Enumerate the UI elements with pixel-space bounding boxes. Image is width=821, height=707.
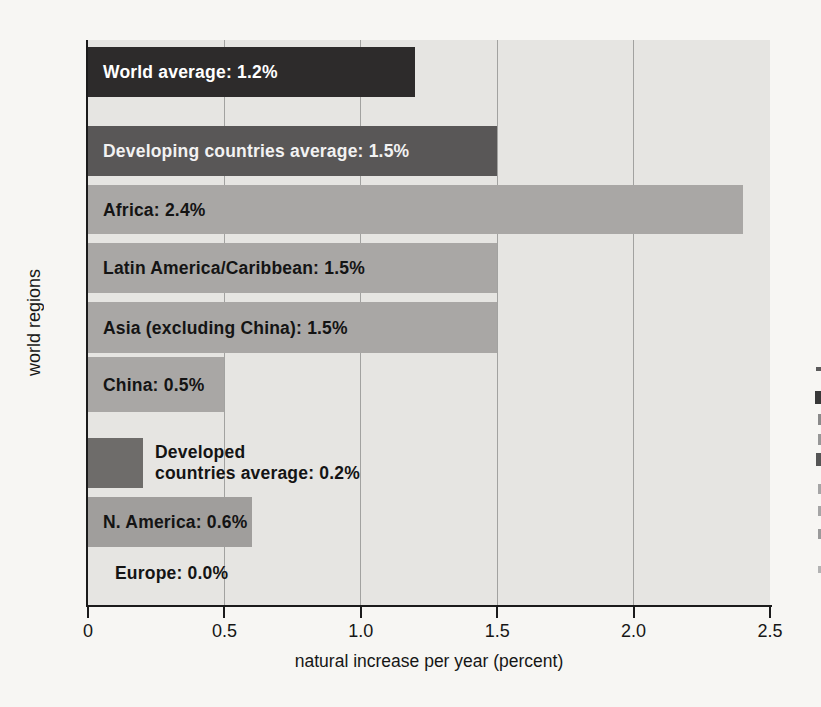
cropped-text-fragment [816,367,821,371]
bar-label-developing-countries-average: Developing countries average: 1.5% [103,141,409,162]
bar-developed-countries-average [88,438,143,488]
bar-row-developed-countries-average: Developedcountries average: 0.2% [88,438,770,488]
bar-label-developed-countries-average: Developedcountries average: 0.2% [155,442,360,484]
x-tick-label: 2.0 [621,621,646,642]
bar-row-asia-excluding-china: Asia (excluding China): 1.5% [88,302,770,353]
x-tick-mark [769,607,771,618]
bar-label-latin-america-caribbean: Latin America/Caribbean: 1.5% [103,258,365,279]
bar-label-n-america: N. America: 0.6% [103,512,248,533]
bar-row-latin-america-caribbean: Latin America/Caribbean: 1.5% [88,243,770,293]
x-tick-mark [87,607,89,618]
scanned-page: world regions World average: 1.2%Develop… [0,0,821,707]
x-axis-title: natural increase per year (percent) [88,651,770,672]
x-tick-mark [223,607,225,618]
bar-row-n-america: N. America: 0.6% [88,497,770,547]
bar-row-africa: Africa: 2.4% [88,185,770,234]
y-axis-title: world regions [24,40,45,605]
x-tick-label: 1.0 [348,621,373,642]
bar-label-world-average: World average: 1.2% [103,62,278,83]
plot-area: World average: 1.2%Developing countries … [88,40,770,605]
bar-row-developing-countries-average: Developing countries average: 1.5% [88,126,770,176]
x-tick-label: 0 [83,621,93,642]
bar-row-world-average: World average: 1.2% [88,47,770,97]
cropped-text-fragment [815,391,821,404]
x-tick-mark [496,607,498,618]
bar-row-china: China: 0.5% [88,357,770,412]
x-tick-label: 1.5 [485,621,510,642]
x-tick-label: 2.5 [757,621,782,642]
cropped-text-fragment [816,453,821,466]
bar-label-asia-excluding-china: Asia (excluding China): 1.5% [103,317,348,338]
bar-label-china: China: 0.5% [103,374,204,395]
bar-label-africa: Africa: 2.4% [103,199,206,220]
x-tick-label: 0.5 [212,621,237,642]
x-tick-mark [360,607,362,618]
bar-row-europe: Europe: 0.0% [88,548,770,598]
bar-label-europe: Europe: 0.0% [115,563,228,584]
x-tick-mark [633,607,635,618]
x-axis-ticks: 00.51.01.52.02.5 [88,605,770,655]
